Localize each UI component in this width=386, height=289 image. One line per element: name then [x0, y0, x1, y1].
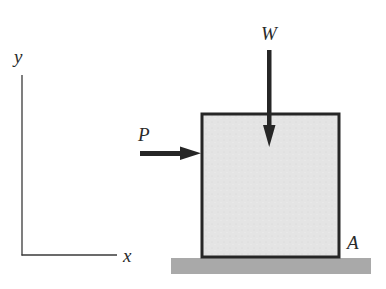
push-arrow-shaft	[140, 151, 182, 156]
coordinate-axes: y x	[12, 46, 132, 266]
ground-surface	[171, 258, 371, 274]
x-axis-label: x	[122, 245, 132, 266]
push-label: P	[137, 124, 150, 145]
push-force-arrow: P	[137, 124, 201, 160]
weight-label: W	[261, 23, 279, 44]
y-axis-label: y	[12, 46, 23, 67]
free-body-diagram: y x W P A	[0, 0, 386, 289]
weight-arrow-shaft	[267, 50, 272, 128]
arrowhead-right-icon	[180, 147, 201, 161]
corner-label-a: A	[345, 232, 359, 253]
